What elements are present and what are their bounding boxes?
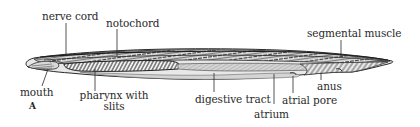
label-digestive-tract: digestive tract xyxy=(195,94,271,105)
label-mouth: mouth xyxy=(20,87,54,98)
panel-letter: A xyxy=(29,101,36,111)
label-atrium: atrium xyxy=(254,109,289,120)
label-notochord: notochord xyxy=(106,18,159,29)
label-segmental-muscle: segmental muscle xyxy=(307,28,401,39)
label-anus: anus xyxy=(317,81,342,92)
label-pharynx-line2: slits xyxy=(76,101,152,112)
lancelet-diagram: nerve cord notochord segmental muscle mo… xyxy=(0,0,420,127)
label-nerve-cord: nerve cord xyxy=(42,11,98,22)
label-pharynx-with-slits: pharynx with slits xyxy=(76,90,152,112)
label-atrial-pore: atrial pore xyxy=(282,95,337,106)
